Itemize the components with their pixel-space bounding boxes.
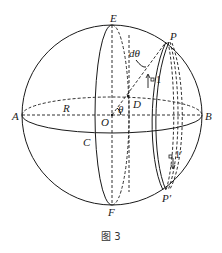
label-F: F <box>107 206 115 218</box>
d-theta-pointer <box>136 60 146 67</box>
label-O: O <box>101 116 109 128</box>
point-D <box>127 95 129 97</box>
label-R: R <box>62 102 70 114</box>
arrow-1 <box>146 74 150 88</box>
label-1-prime: 1′ <box>175 149 182 160</box>
label-d-theta: dθ <box>129 47 141 59</box>
element-1 <box>151 78 154 81</box>
label-D: D <box>132 98 141 110</box>
point-O <box>111 114 113 116</box>
label-C: C <box>83 136 91 148</box>
label-P: P <box>169 30 177 42</box>
label-A: A <box>11 110 19 122</box>
label-P-prime: P′ <box>161 192 172 204</box>
label-B: B <box>205 110 212 122</box>
sphere-diagram: E F A B C D O R P P′ θ dθ 1 1′ 图 3 <box>0 0 222 253</box>
figure-caption: 图 3 <box>101 231 121 242</box>
label-1: 1 <box>156 74 161 85</box>
label-E: E <box>109 12 117 24</box>
label-theta: θ <box>118 103 124 115</box>
